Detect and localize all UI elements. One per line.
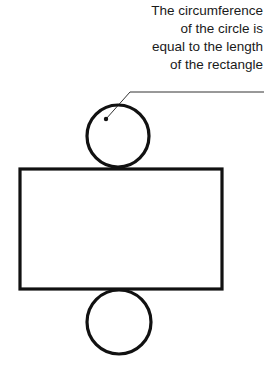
top-circle (87, 105, 149, 167)
bottom-circle (87, 290, 151, 354)
leader-dot (104, 117, 108, 121)
cylinder-net-diagram (0, 0, 277, 374)
rectangle (20, 169, 222, 289)
